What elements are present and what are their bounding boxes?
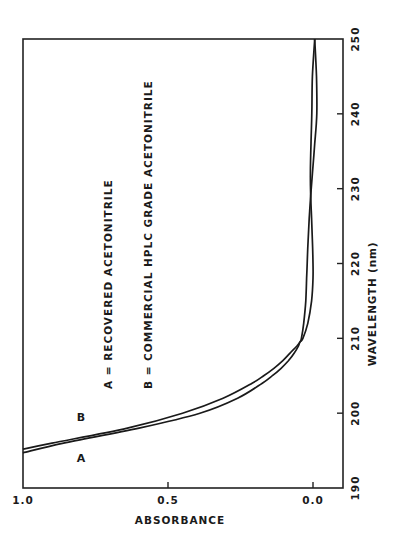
- chart-stage: 190200210220230240250 0.00.51.0 AB A = R…: [0, 0, 395, 554]
- x-tick-label: 230: [349, 176, 361, 201]
- x-tick-label: 220: [349, 251, 361, 276]
- y-axis-label: ABSORBANCE: [135, 514, 226, 526]
- legend-annotation-b: B = COMMERCIAL HPLC GRADE ACETONITRILE: [142, 80, 154, 389]
- x-ticks: 190200210220230240250: [337, 27, 361, 501]
- x-tick-label: 250: [349, 27, 361, 52]
- x-tick-label: 190: [349, 476, 361, 501]
- plot-frame: [23, 39, 343, 488]
- legend-annotation-a: A = RECOVERED ACETONITRILE: [102, 179, 114, 389]
- absorbance-chart: 190200210220230240250 0.00.51.0 AB A = R…: [0, 0, 395, 554]
- y-tick-label: 0.0: [302, 494, 324, 506]
- curve-label-b: B: [77, 411, 85, 424]
- x-tick-label: 200: [349, 401, 361, 426]
- y-ticks: 0.00.51.0: [12, 482, 324, 506]
- curve-a: [23, 39, 315, 453]
- y-tick-label: 0.5: [157, 494, 179, 506]
- x-axis-label: WAVELENGTH (nm): [366, 242, 378, 367]
- x-tick-label: 210: [349, 326, 361, 351]
- curve-b: [23, 39, 317, 449]
- curves: AB: [23, 39, 317, 465]
- annotations: A = RECOVERED ACETONITRILE B = COMMERCIA…: [102, 80, 154, 389]
- x-tick-label: 240: [349, 101, 361, 126]
- y-tick-label: 1.0: [12, 494, 34, 506]
- curve-label-a: A: [77, 452, 86, 465]
